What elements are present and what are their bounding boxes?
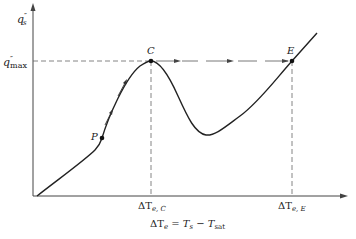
point-e-marker (290, 59, 295, 64)
qmax-label: q″max (3, 55, 27, 70)
point-e-label: E (287, 46, 294, 56)
tick-label-delta-t-e: ΔTe, E (278, 201, 306, 213)
qmax-q: q (3, 56, 10, 69)
tick-label-delta-t-c: ΔTe, C (138, 201, 166, 213)
point-c-label: C (147, 46, 155, 56)
x-label-tsat-sub: sat (215, 223, 226, 231)
arrow-icon (109, 109, 113, 115)
x-label-e-sub: e (164, 223, 168, 231)
x-label-equals: = (171, 218, 179, 229)
point-c-marker (149, 59, 154, 64)
x-label-ts: T (183, 218, 190, 229)
tick-e-main: ΔT (278, 200, 292, 211)
direction-arrow-1 (105, 113, 111, 125)
arrow-icon (174, 59, 181, 63)
x-axis-label: ΔTe = Ts − Tsat (150, 219, 225, 231)
y-axis-arrow-icon (31, 3, 36, 11)
x-label-ts-sub: s (190, 223, 194, 231)
tick-c-main: ΔT (138, 200, 152, 211)
point-p-marker (100, 136, 105, 141)
x-label-delta-t: ΔT (150, 218, 164, 229)
y-label-sub: s (23, 19, 27, 27)
x-label-tsat: T (208, 218, 215, 229)
direction-arrow-2 (118, 83, 125, 96)
x-label-minus: − (196, 218, 204, 229)
arrow-icon (282, 59, 289, 63)
qmax-sub: max (10, 61, 27, 70)
y-axis-label: q″s (17, 12, 27, 27)
tick-e-sub: e, E (292, 205, 306, 213)
x-axis-arrow-icon (340, 194, 348, 199)
tick-c-sub: e, C (152, 205, 166, 213)
boiling-curve (37, 33, 317, 196)
point-p-label: P (91, 132, 98, 142)
arrow-icon (227, 59, 234, 63)
